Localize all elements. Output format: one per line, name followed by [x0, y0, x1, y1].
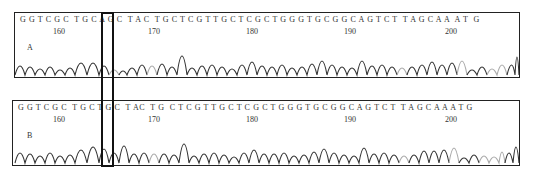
chromatogram-trace-b — [13, 125, 519, 165]
position-tick-180: 180 — [246, 27, 258, 36]
position-tick-160: 160 — [53, 115, 65, 124]
chromatogram-panel-a: G G T C G C T G C A G C T A C T G C T C … — [14, 12, 520, 78]
position-tick-180: 180 — [246, 115, 258, 124]
position-tick-190: 190 — [344, 27, 356, 36]
position-tick-170: 170 — [148, 27, 160, 36]
sequence-text-a: G G T C G C T G C A G C T A C T G C T C … — [20, 15, 480, 24]
chromatogram-panel-b: G G T C G C T G C T G C T AC T G C T C G… — [12, 100, 520, 166]
position-tick-170: 170 — [148, 115, 160, 124]
position-tick-200: 200 — [445, 27, 457, 36]
position-tick-200: 200 — [445, 115, 457, 124]
position-tick-160: 160 — [53, 27, 65, 36]
position-tick-190: 190 — [344, 115, 356, 124]
chromatogram-trace-a — [15, 37, 519, 77]
variant-highlight-box — [101, 12, 114, 167]
sequence-text-b: G G T C G C T G C T G C T AC T G C T C G… — [18, 103, 473, 112]
